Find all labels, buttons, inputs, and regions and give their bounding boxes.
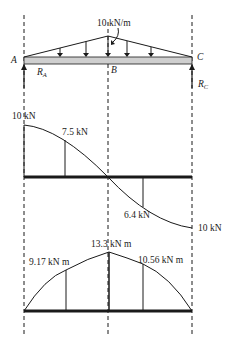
load-intensity-label: 10 kN/m bbox=[97, 19, 131, 29]
reaction-a-arrowhead bbox=[21, 64, 27, 70]
moment-label-9-17: 9.17 kN m bbox=[29, 258, 69, 268]
reaction-a-label: RA bbox=[37, 68, 47, 79]
point-a-label: A bbox=[11, 56, 17, 66]
moment-label-peak: 13.3 kN m bbox=[91, 240, 131, 250]
point-b-label: B bbox=[111, 66, 117, 76]
reaction-a-sub: A bbox=[43, 71, 47, 78]
reaction-arrows bbox=[24, 65, 192, 88]
point-c-label: C bbox=[197, 53, 203, 63]
reaction-c-sub: C bbox=[204, 83, 208, 90]
shear-label-right: 10 kN bbox=[198, 224, 222, 234]
moment-label-10-56: 10.56 kN m bbox=[138, 256, 183, 266]
shear-label-left: 10 kN bbox=[12, 112, 36, 122]
shear-label-7-5: 7.5 kN bbox=[62, 128, 88, 138]
load-arrowheads bbox=[57, 40, 154, 57]
reaction-c-arrowhead bbox=[189, 64, 195, 70]
beam bbox=[24, 57, 192, 64]
shear-label-6-4: 6.4 kN bbox=[124, 211, 150, 221]
reaction-c-label: RC bbox=[198, 80, 208, 91]
